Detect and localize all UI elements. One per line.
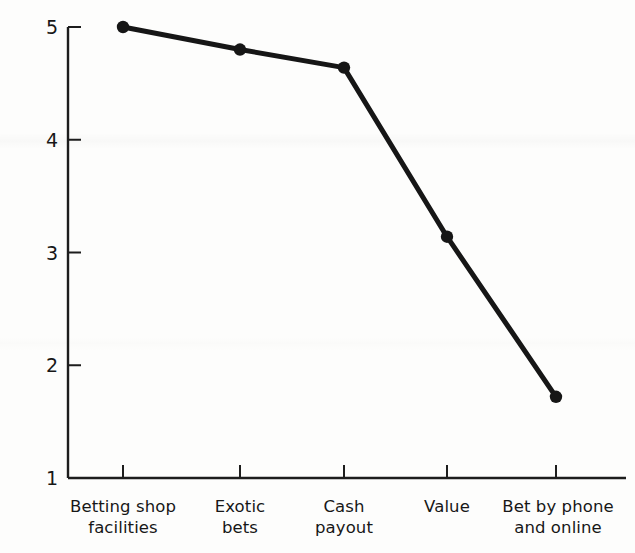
y-tick-label-4: 4 (46, 129, 58, 151)
plot-area: 5 4 3 2 1 (0, 0, 635, 553)
data-point-2 (338, 61, 350, 73)
x-category-label-1: Exotic bets (180, 496, 300, 538)
y-axis-ticks (68, 27, 81, 478)
x-axis-ticks (123, 465, 556, 478)
data-point-3 (441, 231, 453, 243)
data-series-line (123, 27, 556, 397)
x-category-label-2: Cash payout (284, 496, 404, 538)
data-point-0 (117, 21, 129, 33)
y-axis-tick-labels: 5 4 3 2 1 (46, 16, 58, 489)
y-tick-label-5: 5 (46, 16, 58, 38)
data-point-1 (234, 43, 246, 55)
data-series-markers (117, 21, 562, 403)
y-tick-label-2: 2 (46, 354, 58, 376)
data-point-4 (550, 391, 562, 403)
x-category-label-4: Bet by phone and online (483, 496, 633, 538)
y-tick-label-1: 1 (46, 467, 58, 489)
x-category-label-0: Betting shop facilities (43, 496, 203, 538)
line-chart: Importance 5 4 3 2 1 (0, 0, 635, 553)
y-tick-label-3: 3 (46, 242, 58, 264)
